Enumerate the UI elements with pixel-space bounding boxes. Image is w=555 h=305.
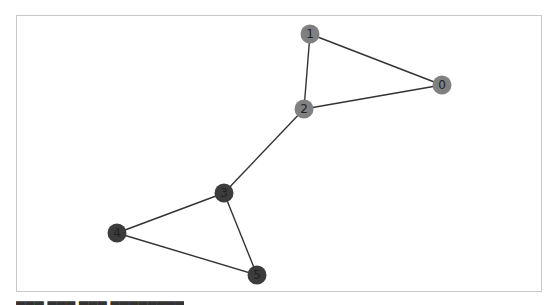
node-label: 0 (438, 78, 446, 92)
node-label: 4 (113, 226, 121, 240)
figure-caption: ▆▆▆ ▆▆▆ ▆▆▆ ▆▆▆▆▆▆▆▆ (16, 298, 184, 305)
edge-0-2 (304, 85, 442, 109)
node-1: 1 (301, 25, 320, 44)
edge-3-5 (224, 193, 257, 275)
graph-edges (117, 34, 442, 275)
node-label: 5 (253, 268, 261, 282)
node-2: 2 (295, 100, 314, 119)
edge-0-1 (310, 34, 442, 85)
node-label: 2 (300, 102, 308, 116)
edge-3-4 (117, 193, 224, 233)
node-label: 3 (220, 186, 228, 200)
node-label: 1 (306, 27, 314, 41)
node-3: 3 (215, 184, 234, 203)
network-graph: 012345 (0, 0, 555, 305)
edge-4-5 (117, 233, 257, 275)
edge-2-3 (224, 109, 304, 193)
edge-1-2 (304, 34, 310, 109)
node-0: 0 (433, 76, 452, 95)
node-4: 4 (108, 224, 127, 243)
node-5: 5 (248, 266, 267, 285)
